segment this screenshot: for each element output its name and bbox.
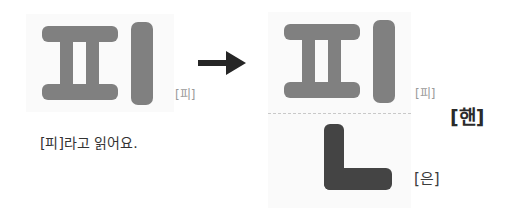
- arrow-right-icon: [196, 48, 248, 78]
- left-caption: [피]라고 읽어요.: [40, 136, 138, 150]
- right-final-reading-label: [은]: [414, 172, 440, 187]
- left-reading-label: [피]: [175, 89, 195, 101]
- illustration-stage: [피] [피]라고 읽어요. [피] [은] [핸]: [0, 0, 517, 216]
- right-onset-rime-reading-label: [피]: [415, 88, 435, 100]
- jamo-vowel-i-icon: [131, 22, 153, 105]
- jamo-vowel-i-icon: [373, 20, 395, 103]
- syllable-divider: [268, 113, 411, 114]
- jamo-nieun-icon: [324, 124, 392, 190]
- combined-syllable-label: [핸]: [450, 108, 484, 127]
- jamo-pieup-icon: [284, 24, 360, 98]
- jamo-pieup-icon: [42, 26, 118, 100]
